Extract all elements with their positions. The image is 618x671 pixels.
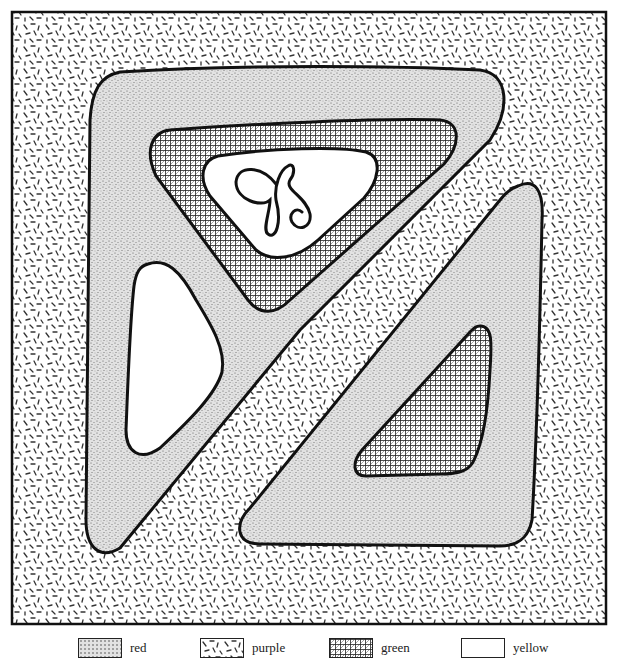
legend-item-yellow: yellow [461,636,548,660]
legend-item-red: red [78,636,147,660]
legend-item-green: green [329,636,410,660]
swatch-dashes-icon [200,638,244,658]
legend-label: yellow [513,640,548,656]
swatch-crosshatch-icon [329,638,373,658]
legend: red purple green yellow [0,630,618,666]
legend-label: purple [252,640,285,656]
legend-label: green [381,640,410,656]
swatch-blank-icon [461,638,505,658]
coloring-diagram [0,0,618,630]
legend-label: red [130,640,147,656]
swatch-stipple-icon [78,638,122,658]
legend-item-purple: purple [200,636,285,660]
